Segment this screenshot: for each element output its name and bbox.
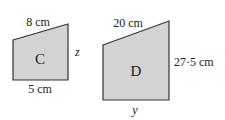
shape-d-right-length: 27·5 cm bbox=[174, 55, 214, 69]
shape-c-top-length: 8 cm bbox=[26, 15, 50, 29]
shape-c: C 8 cm z 5 cm bbox=[13, 15, 80, 96]
shape-d-bottom-length: y bbox=[131, 103, 138, 117]
shape-d-polygon bbox=[103, 21, 169, 100]
shape-d-label: D bbox=[131, 63, 142, 79]
shape-c-bottom-length: 5 cm bbox=[28, 82, 52, 96]
similar-shapes-diagram: C 8 cm z 5 cm D 20 cm 27·5 cm y bbox=[0, 0, 225, 120]
shape-c-label: C bbox=[35, 51, 45, 67]
shape-d-top-length: 20 cm bbox=[113, 16, 143, 30]
shape-c-right-length: z bbox=[74, 45, 80, 59]
shape-d: D 20 cm 27·5 cm y bbox=[103, 16, 214, 117]
